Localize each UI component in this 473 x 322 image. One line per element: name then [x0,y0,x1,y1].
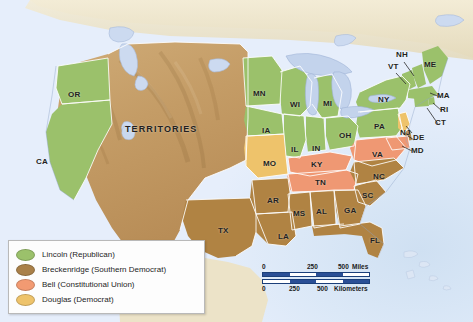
state-label-NY: NY [378,95,390,104]
state-label-TN: TN [315,178,326,187]
scale-miles-tick-250: 250 [307,263,318,270]
legend-label-lincoln: Lincoln (Republican) [42,250,115,259]
state-label-IA: IA [262,126,270,135]
state-label-MI: MI [323,99,332,108]
legend-swatch-douglas [16,294,35,306]
scale-km-unit: Kilometers [334,285,368,292]
map-legend: Lincoln (Republican) Breckenridge (South… [8,240,205,314]
legend-item-breckenridge[interactable]: Breckenridge (Southern Democrat) [16,262,198,277]
state-label-FL: FL [370,236,380,245]
state-label-SC: SC [362,191,374,200]
state-label-IN: IN [312,144,320,153]
legend-swatch-bell [16,279,35,291]
state-label-ME: ME [424,60,436,69]
scale-bar: 0 250 500 Miles 0 250 500 Kilometers [262,263,370,294]
state-label-VT: VT [388,62,399,71]
state-label-RI: RI [440,105,448,114]
state-label-IL: IL [291,145,299,154]
state-label-MS: MS [293,209,305,218]
scale-miles-tick-500: 500 [338,263,349,270]
state-label-VA: VA [372,150,383,159]
scale-km-tick-500: 500 [317,285,328,292]
state-label-LA: LA [278,232,289,241]
state-label-AR: AR [267,196,279,205]
election-map-1860: TERRITORIES OR CA MN WI MI IA IL IN OH P… [0,0,473,322]
scale-miles-unit: Miles [352,263,368,270]
scale-bar-kilometers [262,279,370,284]
state-label-NH: NH [396,50,408,59]
state-label-MA: MA [437,91,450,100]
state-label-OH: OH [339,131,351,140]
state-label-AL: AL [316,207,327,216]
legend-label-douglas: Douglas (Democrat) [42,295,114,304]
state-label-CT: CT [435,118,446,127]
scale-miles-ticks: 0 250 500 Miles [262,263,370,272]
legend-item-douglas[interactable]: Douglas (Democrat) [16,292,198,307]
state-label-CA: CA [36,157,48,166]
legend-item-bell[interactable]: Bell (Constitutional Union) [16,277,198,292]
state-label-KY: KY [311,160,323,169]
state-label-MD: MD [411,146,424,155]
legend-item-lincoln[interactable]: Lincoln (Republican) [16,247,198,262]
scale-miles-tick-0: 0 [262,263,266,270]
state-label-DE: DE [413,133,425,142]
legend-swatch-lincoln [16,249,35,261]
legend-label-breckenridge: Breckenridge (Southern Democrat) [42,265,166,274]
state-label-PA: PA [374,122,385,131]
state-label-OR: OR [68,90,80,99]
state-label-TX: TX [218,226,229,235]
scale-km-tick-250: 250 [289,285,300,292]
state-label-GA: GA [344,206,356,215]
state-label-NJ: NJ [400,128,411,137]
scale-km-tick-0: 0 [262,285,266,292]
legend-label-bell: Bell (Constitutional Union) [42,280,135,289]
state-label-MO: MO [263,159,276,168]
state-label-MN: MN [253,89,266,98]
state-label-NC: NC [373,172,385,181]
scale-km-ticks: 0 250 500 Kilometers [262,285,370,294]
state-label-WI: WI [290,100,300,109]
territories-label: TERRITORIES [125,124,197,134]
legend-swatch-breckenridge [16,264,35,276]
